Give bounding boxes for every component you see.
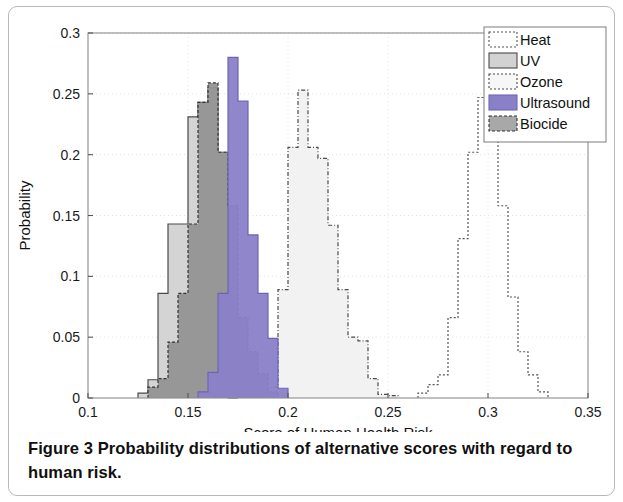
series-ozone	[258, 90, 398, 398]
legend-item-ozone[interactable]: Ozone	[489, 74, 563, 90]
series-heat	[418, 97, 548, 398]
legend-item-ultrasound[interactable]: Ultrasound	[489, 95, 590, 111]
y-tick-label: 0.1	[61, 268, 81, 284]
legend-label-biocide: Biocide	[520, 116, 568, 132]
legend-swatch-uv	[489, 53, 517, 68]
legend-item-uv[interactable]: UV	[489, 53, 540, 69]
y-tick-label: 0.05	[53, 329, 80, 345]
legend-label-ultrasound: Ultrasound	[520, 95, 590, 111]
y-tick-label: 0.2	[61, 147, 81, 163]
y-tick-label: 0.3	[61, 25, 81, 41]
legend-swatch-ultrasound	[489, 95, 517, 110]
legend-swatch-biocide	[489, 116, 517, 131]
legend-label-ozone: Ozone	[520, 74, 563, 90]
legend-item-heat[interactable]: Heat	[489, 32, 551, 48]
figure-card: 00.050.10.150.20.250.30.10.150.20.250.30…	[0, 0, 623, 502]
y-tick-label: 0.25	[53, 86, 80, 102]
figure-caption-label: Figure 3	[28, 439, 93, 457]
legend-label-heat: Heat	[520, 32, 551, 48]
chart-legend: HeatUVOzoneUltrasoundBiocide	[484, 27, 606, 142]
x-axis-title: Score of Human Health Risk	[243, 424, 433, 432]
x-tick-label: 0.3	[478, 404, 498, 420]
legend-label-uv: UV	[520, 53, 540, 69]
legend-swatch-ozone	[489, 74, 517, 89]
legend-item-biocide[interactable]: Biocide	[489, 116, 568, 132]
x-tick-label: 0.1	[78, 404, 98, 420]
histogram-chart: 00.050.10.150.20.250.30.10.150.20.250.30…	[0, 0, 623, 432]
x-tick-label: 0.35	[574, 404, 601, 420]
chart-plot-region: 00.050.10.150.20.250.30.10.150.20.250.30…	[0, 0, 623, 432]
y-tick-label: 0.15	[53, 208, 80, 224]
x-tick-label: 0.25	[374, 404, 401, 420]
legend-swatch-heat	[489, 32, 517, 47]
x-tick-label: 0.15	[174, 404, 201, 420]
x-tick-label: 0.2	[278, 404, 298, 420]
y-axis-title: Probability	[16, 180, 33, 251]
figure-caption-text: Probability distributions of alternative…	[28, 439, 572, 481]
figure-caption: Figure 3 Probability distributions of al…	[28, 437, 598, 485]
series-fill-ozone	[258, 90, 398, 398]
